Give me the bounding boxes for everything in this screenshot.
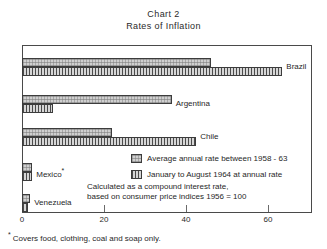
bar-average-venezuela	[22, 194, 30, 203]
bar-january-brazil	[22, 67, 282, 76]
chart-title: Chart 2	[0, 8, 327, 20]
method-note-line-1: Calculated as a compound interest rate,	[87, 182, 246, 192]
x-tick-20	[104, 205, 105, 212]
legend-item-average: Average annual rate between 1958 - 63	[131, 151, 287, 165]
country-label-mexico: Mexico*	[36, 167, 64, 179]
legend-item-january: January to August 1964 at annual rate	[131, 167, 287, 181]
country-label-text: Chile	[200, 132, 218, 141]
chart-subtitle: Rates of Inflation	[0, 20, 327, 32]
footnote: *Covers food, clothing, coal and soap on…	[8, 231, 161, 243]
country-label-brazil: Brazil	[286, 62, 306, 71]
bar-average-brazil	[22, 58, 211, 67]
footnote-text: Covers food, clothing, coal and soap onl…	[13, 234, 161, 243]
bar-january-chile	[22, 137, 196, 146]
country-label-text: Mexico	[36, 170, 61, 179]
legend: Average annual rate between 1958 - 63 Ja…	[131, 151, 287, 183]
method-note: Calculated as a compound interest rate, …	[87, 182, 246, 202]
x-tick-label-20: 20	[100, 215, 109, 224]
bar-average-chile	[22, 128, 112, 137]
legend-label-january: January to August 1964 at annual rate	[147, 170, 282, 179]
country-label-text: Argentina	[176, 99, 210, 108]
bar-january-argentina	[22, 104, 53, 113]
bar-january-mexico	[22, 172, 32, 181]
x-tick-label-60: 60	[264, 215, 273, 224]
footnote-star: *	[8, 231, 11, 238]
chart-container: Chart 2 Rates of Inflation 0204060 Brazi…	[0, 0, 327, 249]
x-tick-label-0: 0	[20, 215, 24, 224]
country-label-argentina: Argentina	[176, 99, 210, 108]
country-label-chile: Chile	[200, 132, 218, 141]
country-label-text: Venezuela	[34, 198, 71, 207]
bar-average-mexico	[22, 163, 32, 172]
average-rate-swatch	[131, 154, 142, 163]
january-august-swatch	[131, 170, 142, 179]
x-axis-line	[22, 212, 312, 213]
bar-january-venezuela	[22, 203, 28, 212]
method-note-line-2: based on consumer price indices 1956 = 1…	[87, 192, 246, 202]
legend-label-average: Average annual rate between 1958 - 63	[147, 154, 287, 163]
country-label-text: Brazil	[286, 62, 306, 71]
chart-title-block: Chart 2 Rates of Inflation	[0, 8, 327, 32]
country-label-venezuela: Venezuela	[34, 198, 71, 207]
x-tick-label-40: 40	[182, 215, 191, 224]
country-label-star: *	[62, 167, 65, 174]
bar-average-argentina	[22, 95, 172, 104]
x-tick-40	[186, 205, 187, 212]
x-tick-60	[268, 205, 269, 212]
